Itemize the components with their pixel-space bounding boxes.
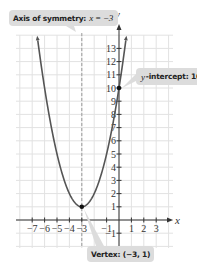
axis-callout-pointer [66,26,76,32]
y-axis-arrow-icon [117,24,122,30]
axis-of-symmetry-callout: Axis of symmetry: x = −3 [9,10,118,26]
y-tick-label: 11 [106,69,116,80]
y-tick-label: 3 [111,175,116,186]
callout-leaders [66,26,138,246]
vertex-point [80,205,85,210]
x-axis-label: x [174,214,180,226]
x-tick-label: 2 [141,223,146,234]
y-intercept-callout: y -intercept: 10 [136,68,197,85]
x-tick-label: −6 [39,223,50,234]
curve-right-arrow-icon [124,36,128,41]
x-tick-label: −7 [27,223,38,234]
y-tick-label: 13 [106,43,116,54]
y-intercept-var: y [141,72,145,82]
y-intercept-text: -intercept: 10 [146,72,197,81]
x-tick-label: −5 [52,223,63,234]
y-tick-label: 12 [106,56,116,67]
axis-of-symmetry-equation: x = −3 [89,13,113,23]
x-tick-label: −3 [76,223,87,234]
x-axis-arrow-icon [167,218,173,223]
vertex-callout: Vertex: (−3, 1) [87,246,154,262]
curve-left-arrow-icon [36,36,40,41]
y-tick-label: −1 [105,228,116,239]
y-tick-label: 9 [111,96,116,107]
y-tick-label: 1 [111,201,116,212]
y-tick-label: 10 [106,83,116,94]
x-tick-label: 3 [154,223,159,234]
x-tick-label: 1 [129,223,134,234]
vertex-text: Vertex: (−3, 1) [91,250,150,259]
y-tick-label: 5 [111,149,116,160]
axis-of-symmetry-text: Axis of symmetry: [13,14,86,23]
grid [16,35,173,248]
x-tick-label: −4 [64,223,75,234]
y-tick-label: 4 [111,162,116,173]
y-tick-label: 6 [111,135,116,146]
parabola-graph: −7−6−5−4−3−1123−112345678910111213 y x [0,0,197,263]
y-intercept-point [117,86,122,91]
y-tick-label: 2 [111,188,116,199]
